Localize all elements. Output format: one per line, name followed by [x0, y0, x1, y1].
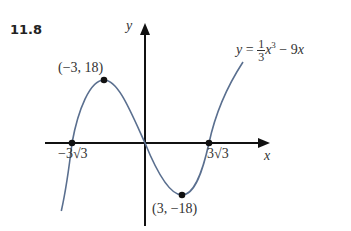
y-axis-label: y — [126, 18, 132, 34]
equation: y = 1 3 x3 − 9x — [236, 38, 304, 63]
local-max-point — [101, 77, 108, 84]
equation-fraction: 1 3 — [257, 38, 265, 63]
right-root-label: 3√3 — [207, 146, 229, 162]
cubic-curve — [61, 62, 243, 211]
equation-equals: = — [246, 42, 254, 57]
local-min-label: (3, −18) — [152, 201, 197, 217]
x-axis-label: x — [264, 148, 270, 164]
local-min-point — [179, 192, 186, 199]
equation-x2: x — [298, 42, 304, 57]
left-root-label: −3√3 — [58, 146, 88, 162]
fraction-denominator: 3 — [257, 51, 265, 63]
x-axis-arrow-icon — [258, 138, 270, 148]
cubic-graph — [0, 0, 351, 231]
equation-rest: − 9 — [276, 42, 298, 57]
equation-lhs: y — [236, 42, 242, 57]
y-axis-arrow-icon — [140, 23, 150, 35]
local-max-label: (−3, 18) — [58, 60, 103, 76]
